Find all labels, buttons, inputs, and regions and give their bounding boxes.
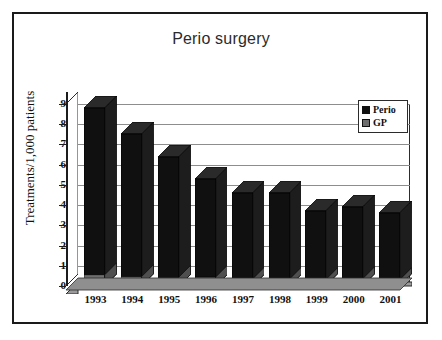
legend-label: GP	[373, 118, 387, 128]
y-tick-mark	[59, 104, 66, 105]
x-tick-label: 1993	[78, 293, 112, 305]
chart-plot: 0123456789 Treatments/1,000 patients 199…	[0, 0, 442, 340]
x-tick-label: 1998	[263, 293, 297, 305]
chart-legend[interactable]: PerioGP	[358, 100, 408, 133]
x-tick-label: 1996	[189, 293, 223, 305]
legend-item[interactable]: Perio	[362, 103, 404, 116]
x-tick-label: 2001	[374, 293, 408, 305]
y-tick-mark	[59, 286, 66, 287]
x-tick-label: 1994	[115, 293, 149, 305]
bar-column	[84, 96, 117, 286]
y-tick-mark	[59, 205, 66, 206]
y-tick-mark	[59, 165, 66, 166]
legend-label: Perio	[373, 105, 396, 115]
y-axis-line	[66, 92, 68, 286]
x-tick-label: 2000	[337, 293, 371, 305]
bar-column	[121, 122, 154, 286]
y-tick-mark	[59, 246, 66, 247]
x-tick-label: 1997	[226, 293, 260, 305]
legend-swatch-icon	[362, 106, 370, 114]
legend-swatch-icon	[362, 119, 370, 127]
legend-item[interactable]: GP	[362, 116, 404, 129]
x-tick-label: 1995	[152, 293, 186, 305]
y-axis-ticks: 0123456789	[36, 0, 66, 340]
y-tick-mark	[59, 225, 66, 226]
y-tick-mark	[59, 124, 66, 125]
x-tick-label: 1999	[300, 293, 334, 305]
y-tick-mark	[59, 185, 66, 186]
y-axis-label: Treatments/1,000 patients	[22, 58, 38, 258]
y-tick-mark	[59, 266, 66, 267]
y-tick-mark	[59, 144, 66, 145]
x-axis-labels: 199319941995199619971998199920002001	[0, 293, 442, 311]
chart-floor	[66, 264, 412, 294]
